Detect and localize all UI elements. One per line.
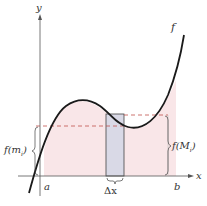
riemann-sum-diagram: y x f a b Δx f(mi) f(Mi): [0, 0, 207, 206]
max-value-label: f(Mi): [172, 141, 196, 153]
diagram-canvas: [0, 0, 207, 206]
delta-x-label: Δx: [104, 186, 117, 196]
function-label: f: [171, 22, 175, 33]
y-axis-label: y: [36, 3, 42, 13]
x-axis-arrow-icon: [188, 174, 194, 178]
a-label: a: [44, 182, 50, 192]
y-axis-arrow-icon: [38, 14, 42, 20]
min-value-label: f(mi): [4, 145, 27, 157]
x-axis-label: x: [196, 171, 202, 181]
b-label: b: [174, 182, 180, 192]
delta-x-brace-icon: [107, 178, 123, 184]
